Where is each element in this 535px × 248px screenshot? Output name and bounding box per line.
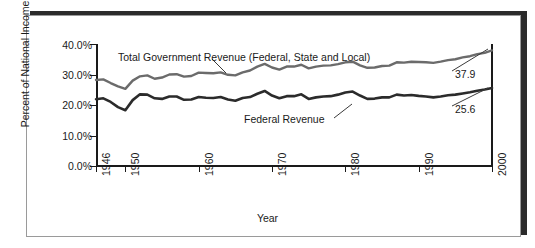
x-tick-label-1990: 1990 xyxy=(423,153,435,176)
x-tick-mark-1946 xyxy=(96,167,97,172)
x-tick-label-1950: 1950 xyxy=(129,153,141,176)
end-value-federal-revenue: 25.6 xyxy=(455,103,475,115)
x-tick-label-1960: 1960 xyxy=(203,153,215,176)
x-tick-mark-1960 xyxy=(199,167,200,172)
x-tick-mark-1990 xyxy=(419,167,420,172)
x-tick-label-2000: 2000 xyxy=(496,153,508,176)
x-tick-label-1970: 1970 xyxy=(276,153,288,176)
x-tick-mark-1980 xyxy=(345,167,346,172)
x-axis-title: Year xyxy=(0,212,535,224)
end-value-total-government-revenue: 37.9 xyxy=(455,68,475,80)
x-tick-mark-1970 xyxy=(272,167,273,172)
figure-container: Percent of National Income 40.0% 30.0% 2… xyxy=(0,0,535,248)
x-tick-mark-2000 xyxy=(492,167,493,172)
annotation-federal-revenue: Federal Revenue xyxy=(244,113,325,125)
annotation-total-government-revenue: Total Government Revenue (Federal, State… xyxy=(118,51,370,63)
x-tick-mark-1950 xyxy=(125,167,126,172)
x-tick-label-1946: 1946 xyxy=(100,153,112,176)
x-tick-label-1980: 1980 xyxy=(349,153,361,176)
